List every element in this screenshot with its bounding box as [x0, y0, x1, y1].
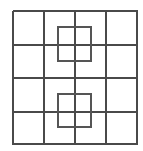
figure-canvas	[0, 0, 143, 151]
grid-figure	[0, 0, 143, 151]
